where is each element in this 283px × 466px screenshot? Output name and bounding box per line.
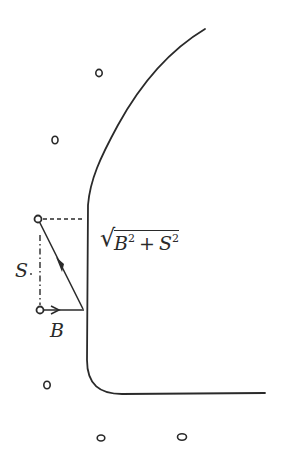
b-var: B	[114, 232, 128, 254]
point-marker	[97, 435, 105, 441]
s-exponent: 2	[172, 232, 179, 245]
upper-point-marker	[35, 216, 42, 223]
s-var: S	[159, 232, 172, 254]
s-label-dot	[30, 273, 32, 275]
boundary-curve	[87, 29, 265, 394]
point-marker	[178, 434, 187, 440]
point-marker	[96, 69, 102, 76]
lower-point-marker	[37, 307, 44, 314]
plus-sign: +	[139, 232, 155, 254]
b-exponent: 2	[128, 232, 135, 245]
b-label: B	[50, 321, 64, 340]
s-label: S	[15, 261, 28, 280]
point-marker	[52, 136, 58, 144]
sqrt-icon: √	[100, 226, 115, 250]
point-marker	[44, 381, 50, 389]
resultant-magnitude-label: √ B2+S2	[100, 222, 200, 258]
radicand: B2+S2	[114, 230, 179, 253]
